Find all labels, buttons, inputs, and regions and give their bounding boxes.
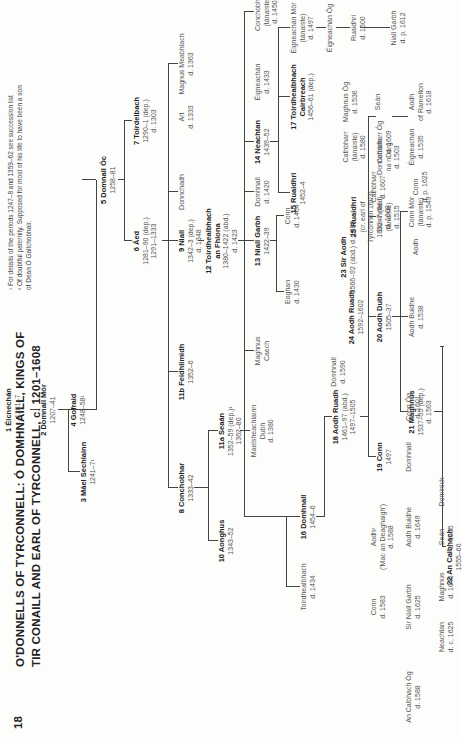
connector xyxy=(58,409,68,410)
person-eoghan-d1430: Eoghan d. 1430 xyxy=(284,280,301,304)
person-eigneachan-mor: Éigneachán Mór (tánaiste) d. 1497 xyxy=(290,3,316,54)
person-neachtan-1625: Neachtan d. c. 1625 xyxy=(438,622,455,653)
person-cathbharr-1607: Cathbharr d. 1607 xyxy=(370,171,387,202)
connector xyxy=(194,487,208,488)
person-domhnall-d1420: Domhnall d. 1420 xyxy=(254,177,271,207)
connector xyxy=(244,350,254,351)
connector xyxy=(336,27,350,28)
connector xyxy=(168,191,178,192)
person-toirdelbach-7: 7 Toirdelbach 1290–1 (dep.) d. 1303 xyxy=(133,97,159,145)
connector xyxy=(244,12,245,517)
footnote-2: ² Of doubtful paternity. Supposed for mo… xyxy=(15,0,24,290)
person-maghnus-caech: Maghnus Caech xyxy=(254,337,271,366)
connector xyxy=(324,417,325,517)
person-maelsheachlainn-dubh: Maelsheachlainn Dubh d. 1380 xyxy=(250,405,276,458)
connector xyxy=(124,120,132,121)
person-conn-d1583: Conn d. 1583 xyxy=(370,595,387,618)
person-aodh-ruadh-18: 18 Aodh Ruadh 1461–97 (abd.) 1497–1505 xyxy=(332,390,358,445)
person-eicnechan: 1 Éicnechán c. 1201–7 xyxy=(5,388,22,432)
connector xyxy=(400,212,401,412)
person-eigneachan-og: Éigneachán Óg xyxy=(326,4,335,52)
person-eigneachan-1535: Éigneachán d. 1535 xyxy=(408,129,425,166)
person-aodh-mac-an-deaghaigh: Aodh² ('Mac an Deaghaigh') d. 1588 xyxy=(370,504,396,570)
connector xyxy=(400,316,408,317)
person-sir-niall-garbh: Sir Niall Garbh d. 1625 xyxy=(405,584,422,630)
connector xyxy=(392,116,408,117)
footnotes: ¹ For details of the periods 1247–8 and … xyxy=(6,0,33,290)
person-aodh-ruadh-24: 24 Aodh Ruadh 1592–1602 xyxy=(348,290,365,345)
person-niall-garbh-d1612: Niall Garbh d. p. 1612 xyxy=(390,10,407,45)
connector xyxy=(440,346,444,347)
person-aodh-buidhe-1538: Aodh Buidhe d. 1538 xyxy=(408,297,425,337)
person-aodh-of-ramelton: Aodh of Ramelton d. 1618 xyxy=(408,83,434,121)
connector xyxy=(244,11,254,12)
person-neachtan-14: 14 Neachtan 1439–52 xyxy=(254,120,271,164)
connector xyxy=(286,516,300,517)
connector xyxy=(442,347,443,547)
connector xyxy=(316,516,324,517)
person-maghnus-og: Maghnus Óg d. 1536 xyxy=(342,82,359,122)
person-mael-sechlainn: 3 Máel Sechlainn 1241–7¹ xyxy=(80,442,97,502)
connector xyxy=(360,416,368,417)
person-domhnall-d1590: Domhnall d. 1590 xyxy=(330,357,347,387)
person-gofraid: 4 Gofraid 1248–58¹ xyxy=(70,394,87,427)
connector xyxy=(276,291,284,292)
page-title: O'DONNELLS OF TYRCONNELL: Ó DOMHNAILL, K… xyxy=(12,332,44,667)
person-conn-19: 19 Conn 1497 xyxy=(376,442,393,472)
connector xyxy=(278,28,279,193)
connector xyxy=(244,516,286,517)
person-ruaidhri-d1500: Ruaidhri d. 1500 xyxy=(350,15,367,41)
footnote-2-cont: of Dean Ó Gallchobhair. xyxy=(24,0,33,290)
connector xyxy=(96,180,97,410)
connector xyxy=(168,64,169,488)
person-donnchadh: Donnchadh xyxy=(178,174,187,210)
person-maghnus-1646: Maghnus d. 1646 xyxy=(438,573,455,602)
connector xyxy=(276,215,284,216)
person-domnall-oc: 5 Domnall Óc 1258–81 xyxy=(100,156,117,204)
person-conn-d1625: Conn d. p. 1625 xyxy=(412,171,429,202)
person-cathbharr-tanaiste: Cathbharr (tánaiste) d. 1580 xyxy=(342,131,368,162)
connector xyxy=(278,27,290,28)
person-aonghus-10: 10 Aonghus 1343–52 xyxy=(218,520,235,563)
person-dominick: Dominick xyxy=(438,478,447,507)
person-conchobhar-d1450: Conchobhar (tánaiste) d. 1450 xyxy=(254,0,280,31)
person-sean-1555: Seán d. 1555 xyxy=(438,525,455,548)
connector xyxy=(168,63,178,64)
person-magnus-meabhlach: Magnus Meabhlach d. 1363 xyxy=(178,33,195,94)
connector xyxy=(124,240,132,241)
person-aodh-son-ruaidhri: Aodh xyxy=(412,239,421,255)
person-toirdhealbhach-17: 17 Toirdhealbhach Cairbreach 1456–61 (de… xyxy=(290,64,316,130)
person-an-calbhach-og: An Calbhach Óg d. 1588 xyxy=(405,671,422,722)
connector xyxy=(244,191,254,192)
footnote-1: ¹ For details of the periods 1247–8 and … xyxy=(6,0,15,290)
person-feidhlimidh-11b: 11b Feidhlimidh 1352–6 xyxy=(178,344,195,401)
person-seaan-11a: 11a Seaán 1352–59 (dep.)¹ 1362–80 xyxy=(218,406,244,456)
connector xyxy=(270,141,278,142)
person-niall-9: 9 Niall 1342–3 (dep.) d. 1348 xyxy=(178,219,204,263)
person-domhnall-b: Domhnall xyxy=(405,442,414,472)
connector xyxy=(286,586,300,587)
connector xyxy=(392,316,400,317)
person-aodh-dubh-20: 20 Aodh Dubh 1505–37 xyxy=(376,292,393,343)
title-line-2: TIR CONAILL AND EARL OF TYRCONNELL, c. 1… xyxy=(28,332,44,667)
connector xyxy=(276,216,277,292)
person-ruaidhri-15: 15 Ruaidhri 1452–4 xyxy=(290,173,307,214)
person-cathbharr-og: Cathbharr Óg d. 1609 xyxy=(376,121,393,163)
connector xyxy=(208,431,209,541)
connector xyxy=(434,411,442,412)
connector xyxy=(368,116,376,117)
person-domnall-mor: 2 Domnall Mór 1207–41 xyxy=(40,384,57,436)
person-sean-son-maghnus-og: Seán xyxy=(374,94,383,110)
connector xyxy=(368,117,369,457)
person-eigneachan-d1433: Éigneachán d. 1433 xyxy=(254,64,271,101)
person-toirdhealbhach-d1434: Toirdhealbhach d. 1434 xyxy=(300,563,317,610)
connector xyxy=(124,121,125,241)
connector xyxy=(286,517,287,587)
title-line-1: O'DONNELLS OF TYRCONNELL: Ó DOMHNAILL, K… xyxy=(12,332,28,667)
person-conchobhar-8: 8 Conchobhar 1333–42 xyxy=(178,463,195,513)
person-conn-og: Conn Óg d. 1601 xyxy=(405,393,422,421)
person-toirdhealbhach-12: 12 Toirdhealbhach an Fhiona 1380–1422 (a… xyxy=(205,208,239,274)
connector xyxy=(82,179,96,180)
connector xyxy=(316,27,326,28)
